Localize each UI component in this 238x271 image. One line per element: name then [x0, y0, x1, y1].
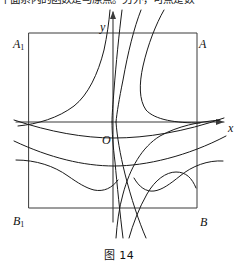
label-y-axis: y [100, 21, 105, 33]
figure-page: 平面系内的函数是与原点。另外，可点是数 [0, 0, 238, 271]
curve-bend-right-upper [140, 10, 200, 123]
label-A: A [199, 38, 206, 50]
curve-flat-arc-upper [14, 118, 224, 138]
label-B: B [200, 216, 207, 228]
body-text-fragment: 平面系内的函数是与原点。另外，可点是数 [0, 0, 238, 7]
label-B1: B1 [13, 215, 24, 227]
label-A1: A1 [13, 38, 24, 50]
figure-caption: 图 14 [0, 246, 238, 262]
y-axis-arrow [110, 11, 116, 19]
curve-hump-right [134, 161, 223, 191]
caption-text: 图 14 [104, 249, 135, 262]
curve-bend-right-lower [129, 172, 196, 238]
curve-hump-left [16, 160, 118, 191]
curve-upper-left-branch [18, 10, 110, 126]
body-text-line: 平面系内的函数是与原点。另外，可点是数 [0, 0, 238, 7]
figure-graphic: A1 A B1 B O x y [0, 8, 238, 240]
label-x-axis: x [228, 122, 233, 134]
label-origin: O [102, 134, 111, 146]
